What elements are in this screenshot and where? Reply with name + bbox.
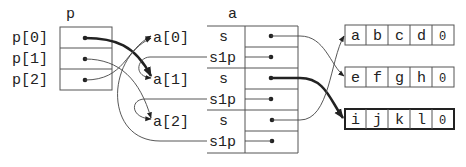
field-s1p-0: s1p bbox=[209, 50, 236, 67]
svg-text:g: g bbox=[395, 70, 404, 87]
string-array-2: i j k l 0 bbox=[345, 109, 454, 129]
p-array bbox=[60, 27, 112, 90]
s-to-string-arrows bbox=[271, 36, 344, 120]
string-array-0: a b c d 0 bbox=[345, 25, 454, 45]
svg-text:l: l bbox=[417, 112, 426, 129]
field-s-2: s bbox=[219, 113, 228, 130]
null-char: 0 bbox=[439, 114, 446, 128]
svg-text:d: d bbox=[417, 28, 426, 45]
field-s-1: s bbox=[219, 71, 228, 88]
null-char: 0 bbox=[439, 30, 446, 44]
svg-text:i: i bbox=[351, 112, 360, 129]
p2-label: p[2] bbox=[12, 72, 48, 89]
field-s1p-1: s1p bbox=[209, 92, 236, 109]
p-array-name: p bbox=[66, 6, 75, 23]
a1-label: a[1] bbox=[153, 72, 189, 89]
svg-text:k: k bbox=[395, 112, 404, 129]
svg-text:h: h bbox=[417, 70, 426, 87]
a0-label: a[0] bbox=[153, 30, 189, 47]
svg-text:f: f bbox=[373, 70, 382, 87]
null-char: 0 bbox=[439, 72, 446, 86]
s1p-leads bbox=[245, 57, 272, 141]
field-s-0: s bbox=[219, 29, 228, 46]
p0-label: p[0] bbox=[12, 30, 48, 47]
a2-label: a[2] bbox=[153, 114, 189, 131]
svg-text:b: b bbox=[373, 28, 382, 45]
svg-text:e: e bbox=[351, 70, 360, 87]
string-array-1: e f g h 0 bbox=[345, 67, 454, 87]
pointer-diagram: p p[0] p[1] p[2] a[0] a[1] a[2] a s s1p … bbox=[0, 0, 466, 167]
p1-label: p[1] bbox=[12, 51, 48, 68]
a-struct-name: a bbox=[228, 6, 237, 23]
svg-text:a: a bbox=[351, 28, 360, 45]
field-s1p-2: s1p bbox=[209, 134, 236, 151]
svg-text:c: c bbox=[395, 28, 404, 45]
svg-text:j: j bbox=[373, 112, 382, 129]
